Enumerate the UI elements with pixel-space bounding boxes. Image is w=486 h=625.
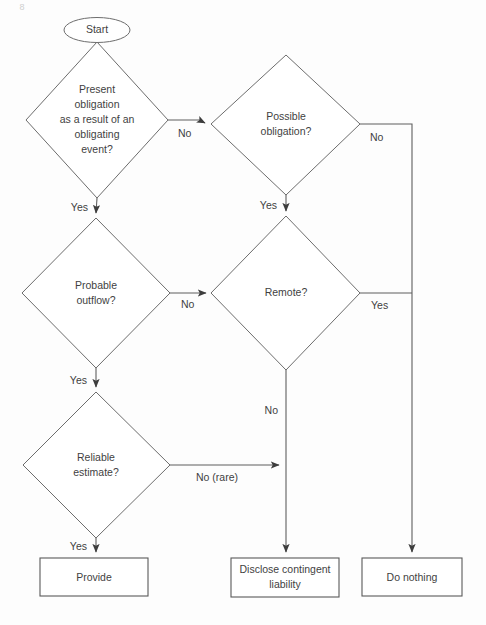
start-label: Start [86,23,108,35]
disclose-label-line1: Disclose contingent [239,563,330,575]
present-obligation-label-line5: event? [81,143,113,155]
possible-obligation-label-line2: obligation? [261,125,312,137]
node-provide[interactable]: Provide [40,558,148,596]
node-disclose-contingent-liability[interactable]: Disclose contingent liability [231,558,339,597]
edge-label-probable-outflow-no: No [181,298,195,310]
present-obligation-label-line3: as a result of an [60,113,135,125]
probable-outflow-label-line2: outflow? [76,294,115,306]
edge-present-obligation-no [168,120,205,123]
present-obligation-label-line1: Present [79,83,115,95]
edge-label-remote-yes: Yes [371,299,388,311]
node-possible-obligation[interactable]: Possible obligation? [211,55,360,195]
figure-corner-mark: 8 [19,2,24,12]
flowchart-svg: Start Present obligation as a result of … [0,0,486,625]
possible-obligation-label-line1: Possible [266,110,306,122]
node-start[interactable]: Start [64,18,130,43]
node-remote[interactable]: Remote? [211,216,360,370]
node-reliable-estimate[interactable]: Reliable estimate? [23,392,170,538]
present-obligation-label-line2: obligation [75,98,120,110]
provide-label: Provide [76,571,112,583]
remote-label: Remote? [265,286,308,298]
reliable-estimate-label-line1: Reliable [77,451,115,463]
present-obligation-label-line4: obligating [75,128,120,140]
edge-present-obligation-yes [96,198,97,213]
edge-label-probable-outflow-yes: Yes [70,374,87,386]
node-present-obligation[interactable]: Present obligation as a result of an obl… [26,42,168,198]
edge-label-possible-obligation-yes: Yes [260,199,277,211]
edge-label-present-obligation-no: No [178,127,192,139]
edge-label-possible-obligation-no: No [370,131,384,143]
edge-label-reliable-estimate-yes: Yes [70,540,87,552]
reliable-estimate-label-line2: estimate? [73,466,119,478]
edge-label-remote-no: No [265,404,279,416]
disclose-label-line2: liability [269,578,301,590]
node-probable-outflow[interactable]: Probable outflow? [22,218,170,368]
edge-label-reliable-estimate-no-rare: No (rare) [196,471,238,483]
node-do-nothing[interactable]: Do nothing [362,558,462,596]
do-nothing-label: Do nothing [387,571,438,583]
edge-possible-obligation-no [360,124,412,552]
edge-label-present-obligation-yes: Yes [71,201,88,213]
probable-outflow-label-line1: Probable [75,279,117,291]
flowchart-container: Start Present obligation as a result of … [0,0,486,625]
